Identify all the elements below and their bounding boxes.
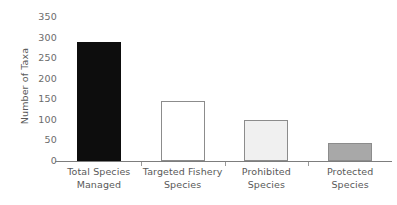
- bar-4: [328, 143, 372, 161]
- x-axis-label-1-line-1: Total Species: [57, 166, 141, 179]
- x-axis-label-3: ProhibitedSpecies: [225, 166, 309, 191]
- x-axis-label-2-line-1: Targeted Fishery: [141, 166, 225, 179]
- y-axis-tick-350: 350: [27, 12, 57, 22]
- y-axis-tick-200: 200: [27, 74, 57, 84]
- x-axis-label-4: ProtectedSpecies: [308, 166, 392, 191]
- bar-2: [161, 101, 205, 161]
- x-axis-label-4-line-2: Species: [308, 179, 392, 192]
- x-axis-category-labels: Total SpeciesManagedTargeted FisherySpec…: [57, 166, 392, 202]
- plot-area: [57, 12, 392, 161]
- x-axis-label-1: Total SpeciesManaged: [57, 166, 141, 191]
- y-axis-tick-100: 100: [27, 115, 57, 125]
- x-axis-tick-3: [308, 162, 309, 166]
- y-axis-tick-300: 300: [27, 33, 57, 43]
- bar-3: [244, 120, 288, 161]
- bar-1: [77, 42, 121, 161]
- x-axis-label-4-line-1: Protected: [308, 166, 392, 179]
- x-axis-tick-1: [141, 162, 142, 166]
- y-axis-tick-0: 0: [27, 156, 57, 166]
- x-axis-label-1-line-2: Managed: [57, 179, 141, 192]
- y-axis-tick-150: 150: [27, 94, 57, 104]
- x-axis-label-3-line-1: Prohibited: [225, 166, 309, 179]
- y-axis-tick-50: 50: [27, 135, 57, 145]
- y-axis-tick-labels: 050100150200250300350: [27, 0, 57, 205]
- y-axis-tick-250: 250: [27, 53, 57, 63]
- x-axis-label-2-line-2: Species: [141, 179, 225, 192]
- x-axis-label-2: Targeted FisherySpecies: [141, 166, 225, 191]
- x-axis-tick-2: [225, 162, 226, 166]
- bar-chart: Number of Taxa 050100150200250300350 Tot…: [0, 0, 397, 205]
- x-axis-label-3-line-2: Species: [225, 179, 309, 192]
